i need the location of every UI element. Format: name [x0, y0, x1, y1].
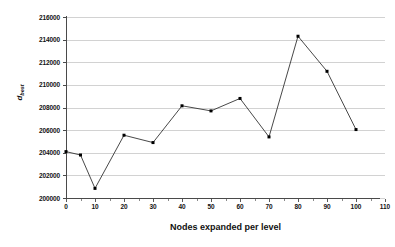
data-point-marker [123, 134, 126, 137]
gridline-horizontal [66, 40, 385, 41]
x-tick-label: 110 [370, 203, 395, 211]
y-tick-label: 204000 [12, 149, 60, 156]
gridline-horizontal [66, 108, 385, 109]
x-tick-label: 20 [109, 203, 139, 211]
x-tick-label: 80 [283, 203, 313, 211]
x-tick-mark [66, 199, 67, 202]
x-axis-title: Nodes expanded per level [66, 222, 385, 232]
x-tick-mark [153, 199, 154, 202]
x-tick-minor [139, 199, 140, 201]
y-tick-label: 200000 [12, 195, 60, 202]
data-point-marker [210, 109, 213, 112]
x-tick-minor [226, 199, 227, 201]
x-tick-label: 50 [196, 203, 226, 211]
data-point-marker [181, 104, 184, 107]
x-axis-line [66, 198, 380, 199]
data-point-marker [326, 70, 329, 73]
x-tick-mark [269, 199, 270, 202]
x-tick-label: 100 [341, 203, 371, 211]
y-tick-label: 206000 [12, 127, 60, 134]
x-tick-minor [81, 199, 82, 201]
x-tick-minor [371, 199, 372, 201]
line-chart: 2000002020002040002060002080002100002120… [0, 0, 395, 247]
x-tick-label: 40 [167, 203, 197, 211]
x-tick-label: 0 [51, 203, 81, 211]
data-point-marker [268, 135, 271, 138]
x-tick-minor [284, 199, 285, 201]
x-tick-minor [342, 199, 343, 201]
x-tick-label: 70 [254, 203, 284, 211]
data-point-marker [152, 141, 155, 144]
x-tick-label: 30 [138, 203, 168, 211]
gridline-horizontal [66, 85, 385, 86]
gridline-horizontal [66, 130, 385, 131]
gridline-horizontal [66, 175, 385, 176]
x-tick-mark [182, 199, 183, 202]
y-tick-label: 216000 [12, 14, 60, 21]
y-tick-label: 212000 [12, 59, 60, 66]
gridline-horizontal [66, 62, 385, 63]
y-tick-label: 214000 [12, 36, 60, 43]
gridline-horizontal [66, 17, 385, 18]
y-axis-title-base: d [15, 96, 24, 101]
x-tick-label: 60 [225, 203, 255, 211]
x-tick-minor [255, 199, 256, 201]
x-tick-mark [240, 199, 241, 202]
y-axis-title-sub: best [18, 84, 24, 95]
x-tick-minor [197, 199, 198, 201]
x-tick-mark [298, 199, 299, 202]
x-tick-label: 90 [312, 203, 342, 211]
y-axis-line [66, 16, 67, 199]
x-tick-mark [327, 199, 328, 202]
x-tick-minor [313, 199, 314, 201]
x-tick-minor [168, 199, 169, 201]
data-point-marker [94, 187, 97, 190]
x-tick-mark [385, 199, 386, 202]
series-line [66, 36, 356, 188]
x-tick-mark [95, 199, 96, 202]
x-tick-mark [211, 199, 212, 202]
x-tick-mark [124, 199, 125, 202]
data-point-marker [297, 35, 300, 38]
x-tick-label: 10 [80, 203, 110, 211]
data-point-marker [239, 97, 242, 100]
gridline-horizontal [66, 153, 385, 154]
x-tick-minor [110, 199, 111, 201]
y-tick-label: 202000 [12, 172, 60, 179]
y-axis-title: dbest [15, 80, 24, 106]
x-tick-mark [356, 199, 357, 202]
